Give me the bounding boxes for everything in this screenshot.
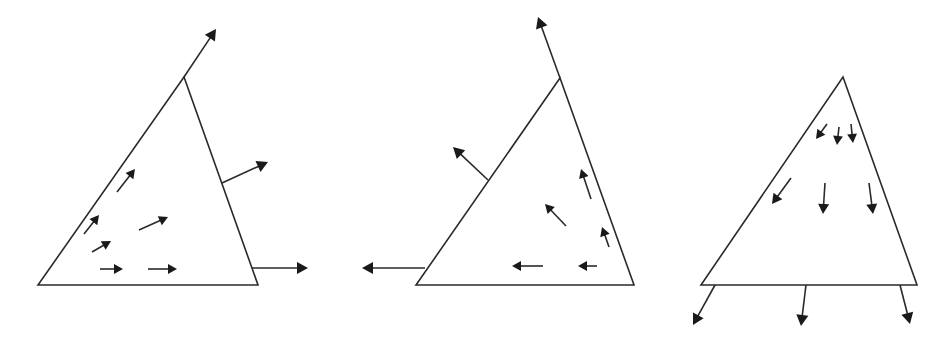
boundary-arrow-icon xyxy=(252,262,308,274)
arrow-shaft xyxy=(222,166,259,183)
arrow-shaft xyxy=(698,285,715,316)
interior-arrow-icon xyxy=(818,183,829,214)
panel-1-outward-flow xyxy=(38,29,308,285)
arrowhead-icon xyxy=(772,193,782,204)
boundary-arrow-icon xyxy=(184,29,216,77)
boundary-arrow-icon xyxy=(536,17,560,78)
arrow-shaft xyxy=(605,235,609,247)
arrowhead-icon xyxy=(818,204,829,214)
arrow-shaft xyxy=(851,124,852,135)
boundary-arrow-icon xyxy=(453,147,488,180)
interior-arrow-icon xyxy=(148,264,177,274)
triangle-outline xyxy=(416,78,634,285)
arrowhead-icon xyxy=(168,264,177,274)
interior-arrow-icon xyxy=(578,261,597,271)
arrowhead-icon xyxy=(847,134,857,143)
interior-arrow-icon xyxy=(579,169,591,199)
interior-arrow-icon xyxy=(92,241,111,252)
interior-arrow-icon xyxy=(84,215,99,234)
interior-arrow-icon xyxy=(139,216,168,230)
arrow-shaft xyxy=(584,177,591,199)
arrowhead-icon xyxy=(866,203,877,214)
arrow-shaft xyxy=(541,26,560,78)
interior-arrow-icon xyxy=(772,178,791,204)
boundary-arrow-icon xyxy=(362,262,425,274)
boundary-arrow-icon xyxy=(796,285,808,326)
boundary-arrow-icon xyxy=(900,285,913,324)
arrowhead-icon xyxy=(578,261,587,271)
interior-arrow-icon xyxy=(600,227,609,247)
interior-arrow-icon xyxy=(545,204,566,226)
arrow-shaft xyxy=(92,245,104,252)
interior-arrow-icon xyxy=(833,127,843,145)
arrow-shaft xyxy=(460,154,488,180)
arrow-shaft xyxy=(117,175,130,192)
arrowhead-icon xyxy=(833,136,843,145)
boundary-arrow-icon xyxy=(222,161,268,183)
arrow-shaft xyxy=(777,178,791,197)
interior-arrow-icon xyxy=(100,264,123,274)
arrow-shaft xyxy=(900,285,908,314)
arrowhead-icon xyxy=(205,29,216,42)
triangle-flow-diagram xyxy=(0,0,952,345)
arrowhead-icon xyxy=(114,264,123,274)
arrowhead-icon xyxy=(796,314,808,326)
interior-arrow-icon xyxy=(117,169,135,192)
arrowhead-icon xyxy=(816,129,825,139)
arrowhead-icon xyxy=(901,312,913,324)
interior-arrow-icon xyxy=(816,124,827,139)
arrowhead-icon xyxy=(126,169,135,179)
arrow-shaft xyxy=(551,210,566,226)
interior-arrow-icon xyxy=(847,124,857,143)
interior-arrow-icon xyxy=(866,183,877,214)
arrow-shaft xyxy=(184,37,210,77)
arrowhead-icon xyxy=(297,262,308,274)
arrow-shaft xyxy=(139,220,161,230)
arrowhead-icon xyxy=(512,261,521,271)
arrow-shaft xyxy=(824,183,825,205)
arrowhead-icon xyxy=(362,262,373,274)
interior-arrow-icon xyxy=(512,261,543,271)
arrow-shaft xyxy=(84,221,94,234)
arrow-shaft xyxy=(838,127,839,137)
arrowhead-icon xyxy=(90,215,99,225)
arrow-shaft xyxy=(869,183,872,205)
arrow-shaft xyxy=(802,285,806,316)
panel-3-downward-flow xyxy=(693,77,917,326)
arrow-shaft xyxy=(821,124,827,133)
panel-2-upward-left-flow xyxy=(362,17,634,285)
triangle-outline xyxy=(701,77,917,285)
boundary-arrow-icon xyxy=(693,285,715,325)
